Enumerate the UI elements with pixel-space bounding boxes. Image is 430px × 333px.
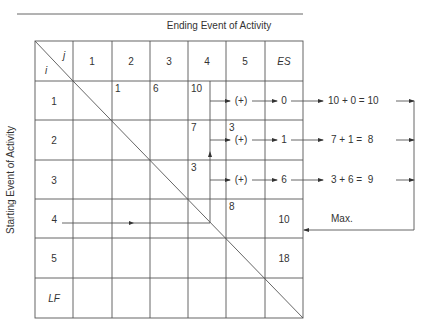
cell-r1c4: 10 [191, 83, 203, 94]
cell-r1c2: 1 [115, 83, 121, 94]
starting-event-label: Starting Event of Activity [5, 126, 16, 234]
corner-diagonal [35, 41, 73, 81]
cell-r1c3: 6 [153, 83, 159, 94]
cell-r4-es: 10 [278, 214, 290, 225]
svg-text:0: 0 [281, 95, 287, 106]
cell-r3c4: 3 [191, 162, 197, 173]
up-arrowhead [208, 151, 212, 157]
row-header-3: 3 [51, 175, 57, 186]
row-header-1: 1 [51, 96, 57, 107]
corner-j: j [61, 50, 66, 61]
col-header-2: 2 [128, 56, 134, 67]
max-bracket: Max. [304, 101, 414, 230]
svg-text:1: 1 [281, 134, 287, 145]
svg-text:6: 6 [281, 174, 287, 185]
row-headers: 1 2 3 4 5 LF [48, 96, 61, 304]
svg-text:(+): (+) [235, 174, 248, 185]
col-header-1: 1 [89, 56, 95, 67]
row-header-lf: LF [48, 293, 61, 304]
row-header-4: 4 [51, 214, 57, 225]
svg-text:3 + 6 = 9: 3 + 6 = 9 [331, 174, 374, 185]
computation-row-3: (+) 6 3 + 6 = 9 [210, 174, 414, 185]
computation-row-2: (+) 1 7 + 1 = 8 [210, 134, 414, 145]
svg-text:10 + 0 = 10: 10 + 0 = 10 [328, 95, 379, 106]
cell-r2c4: 7 [191, 122, 197, 133]
cell-r2c5: 3 [229, 122, 235, 133]
matrix-grid [35, 41, 303, 318]
svg-text:(+): (+) [235, 134, 248, 145]
es-computation-diagram: Ending Event of Activity Starting Event … [0, 0, 430, 333]
ending-event-label: Ending Event of Activity [167, 20, 272, 31]
row-header-2: 2 [51, 135, 57, 146]
column-headers: 1 2 3 4 5 ES [89, 56, 291, 67]
col-header-5: 5 [242, 56, 248, 67]
computation-row-1: (+) 0 10 + 0 = 10 [210, 95, 414, 106]
cell-r5-es: 18 [278, 253, 290, 264]
max-label: Max. [331, 213, 353, 224]
row-4-arrowhead [129, 221, 134, 225]
col-header-es: ES [277, 56, 291, 67]
col-header-4: 4 [204, 56, 210, 67]
row-header-5: 5 [51, 253, 57, 264]
svg-text:7 + 1 = 8: 7 + 1 = 8 [331, 134, 374, 145]
corner-i: i [45, 65, 48, 76]
cell-values: 1 6 10 7 3 3 8 10 18 [115, 83, 290, 264]
svg-text:(+): (+) [235, 95, 248, 106]
col-header-3: 3 [166, 56, 172, 67]
cell-r4c5: 8 [229, 201, 235, 212]
